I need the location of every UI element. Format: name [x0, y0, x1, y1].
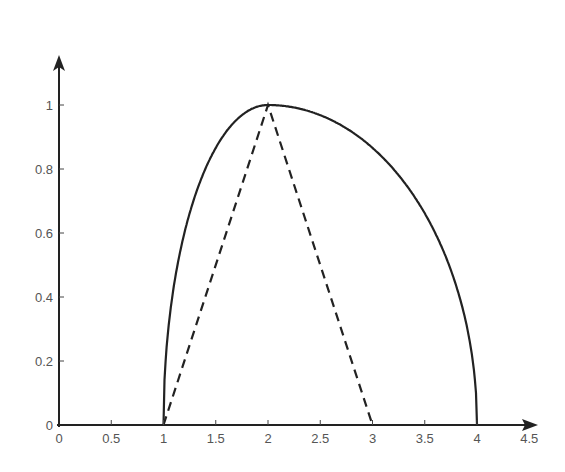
x-ticks: 00.511.522.533.544.5 [55, 420, 538, 446]
solid-curve-line [164, 105, 478, 425]
plot-area [164, 105, 478, 425]
chart: 00.511.522.533.544.5 00.20.40.60.81 [0, 0, 565, 472]
y-tick-label: 1 [46, 98, 53, 113]
y-tick-label: 0.6 [35, 226, 53, 241]
x-tick-label: 1.5 [207, 431, 225, 446]
x-tick-label: 0.5 [102, 431, 120, 446]
x-tick-label: 4.5 [520, 431, 538, 446]
dashed-triangle-line [164, 105, 373, 425]
y-tick-label: 0 [46, 418, 53, 433]
y-tick-label: 0.4 [35, 290, 53, 305]
x-tick-label: 2 [264, 431, 271, 446]
axes [53, 55, 538, 431]
x-tick-label: 3 [369, 431, 376, 446]
x-tick-label: 3.5 [416, 431, 434, 446]
x-tick-label: 1 [160, 431, 167, 446]
x-tick-label: 2.5 [311, 431, 329, 446]
x-tick-label: 4 [473, 431, 480, 446]
x-tick-label: 0 [55, 431, 62, 446]
y-tick-label: 0.2 [35, 354, 53, 369]
y-tick-label: 0.8 [35, 162, 53, 177]
